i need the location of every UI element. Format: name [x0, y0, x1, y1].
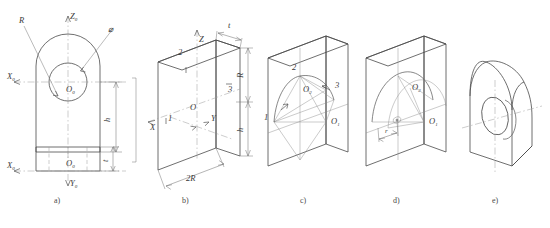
panel-c: 1 2 3 O2 O1 — [264, 36, 348, 166]
label-point-3-c: 3 — [334, 80, 339, 90]
panel-label-d: d) — [393, 196, 400, 205]
label-radius-a: R — [18, 15, 25, 25]
axis-arrow-y-b — [191, 126, 197, 130]
box-right-face-d — [424, 36, 446, 152]
label-t-dim-b: t — [228, 20, 231, 30]
panel-label-b: b) — [182, 196, 189, 205]
label-r-dim-d: r — [385, 127, 388, 135]
box-top-face-d — [366, 36, 446, 66]
label-centre-o2-d: O2 — [412, 82, 421, 93]
axis-arrow-y-tip-b — [204, 122, 210, 126]
label-axis-x0: X0 — [6, 160, 15, 171]
panel-e — [462, 61, 542, 172]
label-t-dim-a: t — [100, 159, 110, 162]
label-diameter-a: ⌀ — [108, 24, 114, 34]
panel-a: R ⌀ Z0 X0 O0 h X0 O0 Y0 t — [6, 11, 136, 189]
label-centre-o1-c: O1 — [331, 116, 340, 127]
box-right-face-c — [326, 36, 348, 152]
tick-arrow-left-c — [281, 104, 288, 110]
label-axis-z0-prime: Z0 — [70, 11, 78, 22]
r-dim-line-d — [379, 133, 397, 139]
t-ext-b1 — [216, 31, 217, 40]
label-axis-x0-prime: X0 — [6, 71, 15, 82]
label-point-2-b: 2 — [178, 47, 183, 57]
side-brace — [132, 78, 136, 162]
r-ext-left-d — [378, 128, 379, 142]
solid-top-edge-e — [512, 82, 524, 110]
solid-front-face-e — [470, 61, 512, 166]
label-origin-o0-prime: O0 — [66, 84, 75, 95]
twor-ext-left-b — [158, 170, 165, 189]
label-2r-dim-b: 2R — [186, 173, 196, 183]
constr-diag-lower-c — [274, 122, 300, 160]
label-point-1-b: 1 — [168, 113, 172, 123]
label-axis-x-b: X — [149, 122, 156, 132]
box-front-face — [158, 40, 216, 170]
panel-d: O2 O1 r — [366, 36, 446, 166]
label-h-dim-a: h — [102, 118, 112, 122]
radius-leader-arrow — [53, 91, 58, 96]
panel-label-c: c) — [300, 196, 307, 205]
label-axis-z-b: Z — [199, 34, 204, 44]
box-right-face — [216, 40, 240, 156]
label-origin-o-b: O — [190, 102, 196, 112]
centerline-horizontal-e — [462, 106, 542, 128]
label-point-1-c: 1 — [264, 112, 268, 122]
axis-line-y-b — [170, 117, 232, 139]
label-centre-o2-c: O2 — [303, 84, 312, 95]
engineering-drawing: R ⌀ Z0 X0 O0 h X0 O0 Y0 t — [0, 0, 550, 228]
label-origin-o0: O0 — [66, 158, 75, 169]
solid-back-arch-e — [486, 61, 532, 166]
label-axis-y0: Y0 — [70, 178, 78, 189]
box-top-face-c — [268, 36, 348, 66]
twor-ext-right-b — [216, 148, 224, 167]
constr-diag-lower2-c — [300, 122, 326, 160]
t-dim-line-b — [218, 33, 241, 40]
figure-canvas: R ⌀ Z0 X0 O0 h X0 O0 Y0 t — [0, 0, 550, 228]
label-h-dim-b: h — [235, 128, 245, 132]
diameter-leader-arrow — [81, 67, 86, 72]
diameter-leader-line — [81, 30, 113, 71]
label-point-3-b: 3 — [227, 84, 232, 94]
solid-right-bottom-e — [512, 146, 532, 166]
constr-o1-o2-d — [410, 88, 424, 122]
panel-label-a: a) — [54, 196, 61, 205]
solid-back-edge-e — [470, 62, 486, 96]
panel-b: X Y Z O 1 2 3 t R h 2R — [148, 20, 253, 189]
panel-label-e: e) — [492, 196, 499, 205]
label-r-dim-b: R — [235, 72, 245, 79]
radius-leader-line — [24, 26, 58, 96]
box-top-face — [158, 40, 240, 70]
constr-2-to-1-c — [274, 76, 300, 122]
label-centre-o1-d: O1 — [429, 116, 438, 127]
